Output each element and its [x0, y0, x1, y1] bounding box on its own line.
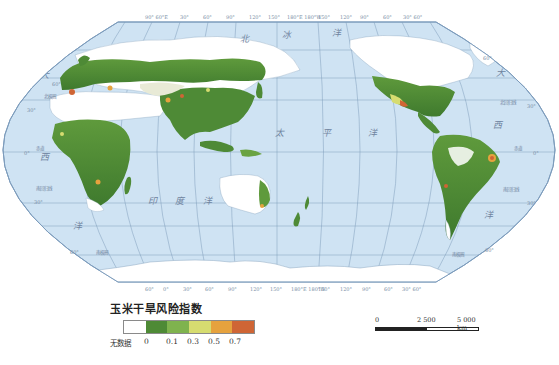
top-tick: 90°: [360, 14, 369, 20]
top-tick: 60°: [203, 14, 212, 20]
arctic-label-2: 冰: [282, 30, 292, 40]
indian-label-1: 印: [148, 196, 158, 206]
top-ticks: 90° 60°E 30° 60° 90° 120° 150° 180°E 180…: [145, 14, 423, 20]
legend-label-0-3: 0.3: [187, 337, 199, 346]
scale-line-filled: [376, 328, 427, 330]
atlantic-left-label-3: 洋: [73, 221, 83, 231]
pacific-label-2: 平: [322, 128, 332, 138]
bottom-tick: 90°: [362, 286, 371, 292]
tropic-capricorn-left-label: 南回归线: [36, 185, 53, 192]
tropic-capricorn-right-label: 南回归线: [503, 186, 520, 193]
bottom-tick: 150°: [318, 286, 331, 292]
top-tick: 90°: [226, 14, 235, 20]
bottom-tick: 90°: [228, 286, 237, 292]
right-tick: 60°: [483, 55, 492, 61]
atlantic-right-label-3: 洋: [484, 210, 494, 220]
atlantic-right-label-1: 大: [496, 68, 506, 78]
top-tick: 150°: [268, 14, 281, 20]
legend-label-0-5: 0.5: [208, 337, 220, 346]
legend-swatch-0-1: [167, 321, 189, 333]
top-tick: 60°: [383, 14, 392, 20]
top-tick: 120°: [340, 14, 353, 20]
legend-label-0-7: 0.7: [229, 337, 241, 346]
left-tick: 60°: [52, 81, 61, 87]
bottom-tick: 120°: [250, 286, 263, 292]
scale-labels: 0 2 500 5 000 km: [375, 316, 485, 325]
right-tick: 30°: [527, 103, 536, 109]
arctic-label-3: 洋: [332, 28, 342, 38]
bottom-tick: 60°: [384, 286, 393, 292]
top-tick: 120°: [249, 14, 262, 20]
legend-swatch-0-7: [232, 321, 254, 333]
world-map: 北 冰 洋 大 西 洋 大 西 洋 印 度 洋 太 平 洋 北极圈 赤道 南回归…: [0, 0, 559, 365]
equator-left-label: 赤道: [36, 145, 45, 152]
legend-label-0: 0: [144, 337, 149, 346]
bottom-tick: 30° 60°: [402, 286, 422, 292]
top-tick: 90° 60°E: [145, 14, 168, 20]
scale-label-0: 0: [375, 316, 379, 324]
bottom-tick: 0°: [163, 286, 169, 292]
legend-labels: 无数据 0 0.1 0.3 0.5 0.7: [110, 337, 260, 347]
left-tick: 30°: [34, 199, 43, 205]
legend-label-nodata: 无数据: [110, 337, 131, 348]
left-tick: 30°: [27, 107, 36, 113]
pacific-label-3: 洋: [368, 128, 378, 138]
bottom-tick: 120°: [340, 286, 353, 292]
pacific-label-1: 太: [275, 128, 285, 138]
legend-swatch-0-5: [211, 321, 233, 333]
equator-right-label: 赤道: [514, 145, 523, 152]
legend-swatch-0-3: [189, 321, 211, 333]
antarctic-circle-left-label: 南极圈: [96, 249, 109, 256]
left-tick: 60°: [70, 249, 79, 255]
left-tick: 0°: [24, 150, 30, 156]
bottom-ticks: 60° 0° 30° 60° 90° 120° 150° 180°E 180°W…: [145, 286, 422, 292]
bottom-tick: 150°: [270, 286, 283, 292]
antarctic-circle-right-label: 南极圈: [452, 251, 465, 258]
legend-swatch-0: [146, 321, 168, 333]
arctic-label-1: 北: [240, 34, 250, 44]
scale-bar: 0 2 500 5 000 km: [375, 316, 485, 336]
tropic-cancer-right-label: 北回归线: [500, 99, 517, 106]
scale-line: [375, 327, 479, 331]
right-tick: 30°: [527, 200, 536, 206]
right-tick: 60°: [485, 247, 494, 253]
tropic-cancer-left-label: 北极圈: [44, 93, 57, 100]
legend-color-bar: [123, 320, 255, 334]
legend: 玉米干旱风险指数 无数据 0 0.1 0.3 0.5 0.7: [110, 300, 260, 347]
top-tick: 30° 60°: [403, 14, 423, 20]
top-tick: 30°: [180, 14, 189, 20]
scale-label-2500: 2 500: [417, 316, 436, 324]
legend-label-0-1: 0.1: [166, 337, 178, 346]
indian-label-3: 洋: [203, 196, 213, 206]
legend-swatch-nodata: [124, 321, 146, 333]
bottom-tick: 60°: [205, 286, 214, 292]
right-tick: 0°: [533, 150, 539, 156]
bottom-tick: 30°: [183, 286, 192, 292]
legend-title: 玉米干旱风险指数: [110, 300, 260, 316]
bottom-tick: 60°: [145, 286, 154, 292]
top-tick: 150°: [318, 14, 331, 20]
